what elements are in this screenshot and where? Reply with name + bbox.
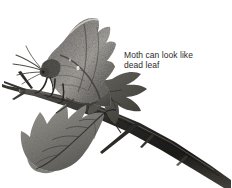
moth-discal-spot — [76, 66, 79, 71]
illustration-figure: Moth can look like dead leaf — [0, 0, 232, 188]
moth-on-branch-illustration — [0, 0, 232, 188]
moth-small-spot — [69, 59, 71, 62]
annotation-label: Moth can look like dead leaf — [124, 51, 226, 70]
